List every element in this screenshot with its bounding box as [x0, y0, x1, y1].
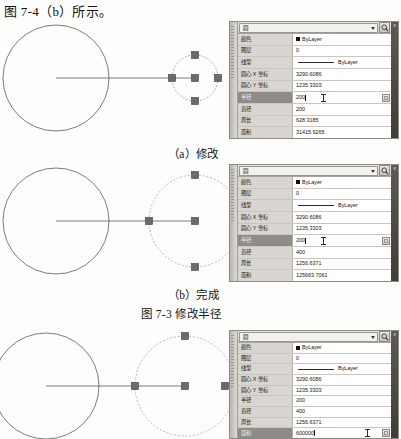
- property-row[interactable]: 圆心 Y 坐标1235.3303: [238, 224, 391, 236]
- property-value[interactable]: 3290.6086: [293, 69, 391, 80]
- property-row[interactable]: 半径200: [238, 396, 391, 407]
- object-type-combo[interactable]: 圆: [239, 23, 378, 33]
- property-value[interactable]: ByLayer: [293, 343, 391, 353]
- property-label: 半径: [238, 235, 293, 246]
- property-row[interactable]: 圆心 Y 坐标1235.3303: [238, 386, 391, 397]
- property-row[interactable]: 圆心 X 坐标3290.6086: [238, 212, 391, 224]
- property-value[interactable]: 0: [293, 189, 391, 200]
- property-label: 圆心 Y 坐标: [238, 386, 293, 396]
- palette-close-strip[interactable]: x: [391, 22, 398, 138]
- property-row[interactable]: 线型ByLayer: [238, 200, 391, 212]
- property-value[interactable]: 31415.9265: [293, 127, 391, 138]
- chevron-down-icon[interactable]: [371, 336, 375, 339]
- property-value[interactable]: 125663.7061: [293, 270, 391, 281]
- property-row[interactable]: 面积600000: [238, 428, 391, 438]
- object-type-combo[interactable]: 圆: [239, 332, 378, 342]
- property-value[interactable]: 0: [293, 354, 391, 364]
- property-value[interactable]: 1256.6371: [293, 418, 391, 428]
- palette-close-strip[interactable]: x: [391, 165, 398, 281]
- property-value-text: 3290.6086: [296, 377, 321, 382]
- property-row[interactable]: 直径200: [238, 104, 391, 116]
- property-row[interactable]: 周长1256.6371: [238, 418, 391, 429]
- close-icon[interactable]: x: [393, 332, 395, 337]
- property-label: 线型: [238, 200, 293, 211]
- property-value[interactable]: 400: [293, 407, 391, 417]
- property-value-text: 1235.3303: [296, 83, 321, 88]
- property-value[interactable]: 600000: [293, 428, 391, 438]
- property-row[interactable]: 周长628.3185: [238, 116, 391, 128]
- property-label: 直径: [238, 407, 293, 417]
- close-icon[interactable]: x: [393, 23, 395, 28]
- property-row[interactable]: 颜色ByLayer: [238, 34, 391, 46]
- property-row[interactable]: 颜色ByLayer: [238, 343, 391, 354]
- property-row[interactable]: 圆心 Y 坐标1235.3303: [238, 81, 391, 93]
- property-row[interactable]: 圆心 X 坐标3290.6086: [238, 69, 391, 81]
- property-row[interactable]: 图层0: [238, 46, 391, 58]
- properties-palette-b[interactable]: 圆 颜色ByLayer图层0线型ByLayer圆心 X 坐标3290.6086圆…: [229, 164, 399, 282]
- quick-select-button[interactable]: [379, 165, 390, 176]
- property-row[interactable]: 图层0: [238, 354, 391, 365]
- property-row[interactable]: 周长1256.6371: [238, 259, 391, 271]
- property-row[interactable]: 直径400: [238, 407, 391, 418]
- grip-left: [146, 218, 153, 225]
- property-value[interactable]: 3290.6086: [293, 375, 391, 385]
- property-row[interactable]: 圆心 X 坐标3290.6086: [238, 375, 391, 386]
- property-label: 颜色: [238, 343, 293, 353]
- grip-right: [215, 75, 222, 82]
- property-label: 半径: [238, 92, 293, 103]
- property-row[interactable]: 面积31415.9265: [238, 127, 391, 138]
- property-label: 线型: [238, 364, 293, 374]
- property-value[interactable]: 1235.3303: [293, 224, 391, 235]
- property-value[interactable]: 200: [293, 235, 391, 246]
- properties-palette-a[interactable]: 圆 颜色ByLayer图层0线型ByLayer圆心 X 坐标3290.6086圆…: [229, 21, 399, 139]
- property-row[interactable]: 面积125663.7061: [238, 270, 391, 281]
- property-value[interactable]: 0: [293, 46, 391, 57]
- property-row[interactable]: 图层0: [238, 189, 391, 201]
- property-value[interactable]: 628.3185: [293, 116, 391, 127]
- close-icon[interactable]: x: [393, 166, 395, 171]
- property-row[interactable]: 半径200: [238, 235, 391, 247]
- property-value[interactable]: ByLayer: [293, 364, 391, 374]
- textbook-page: 图 7-4（b）所示。 圆: [0, 0, 401, 439]
- property-row[interactable]: 线型ByLayer: [238, 364, 391, 375]
- property-value[interactable]: ByLayer: [293, 200, 391, 211]
- property-row[interactable]: 颜色ByLayer: [238, 177, 391, 189]
- property-value[interactable]: ByLayer: [293, 57, 391, 68]
- chevron-down-icon[interactable]: [371, 170, 375, 173]
- pick-point-button[interactable]: [382, 94, 390, 102]
- palette-close-strip[interactable]: x: [391, 331, 398, 438]
- linetype-preview-icon: [298, 205, 334, 206]
- palette-title-rail[interactable]: [230, 165, 238, 281]
- chevron-down-icon[interactable]: [371, 27, 375, 30]
- object-type-combo[interactable]: 圆: [239, 166, 378, 176]
- property-value[interactable]: 1235.3303: [293, 81, 391, 92]
- property-row[interactable]: 半径200: [238, 92, 391, 104]
- ibeam-cursor-icon: [321, 94, 326, 102]
- text-caret: [314, 430, 315, 436]
- property-value-text: ByLayer: [302, 37, 322, 42]
- property-value[interactable]: 1235.3303: [293, 386, 391, 396]
- cad-drawing-b: [0, 168, 228, 286]
- quick-select-button[interactable]: [379, 22, 390, 33]
- property-value[interactable]: 1256.6371: [293, 259, 391, 270]
- quick-select-button[interactable]: [379, 331, 390, 342]
- property-value[interactable]: 200: [293, 104, 391, 115]
- pick-point-button[interactable]: [382, 429, 390, 437]
- property-value-text: ByLayer: [338, 60, 358, 65]
- property-row[interactable]: 直径400: [238, 247, 391, 259]
- text-caret: [305, 95, 306, 101]
- property-value[interactable]: 3290.6086: [293, 212, 391, 223]
- property-value-text: ByLayer: [338, 203, 358, 208]
- pick-point-button[interactable]: [382, 237, 390, 245]
- palette-title-rail[interactable]: [230, 22, 238, 138]
- property-value[interactable]: 200: [293, 92, 391, 103]
- property-value[interactable]: 200: [293, 396, 391, 406]
- properties-palette-c[interactable]: 圆 颜色ByLayer图层0线型ByLayer圆心 X 坐标3290.6086圆…: [229, 330, 399, 439]
- property-value[interactable]: 400: [293, 247, 391, 258]
- property-row[interactable]: 线型ByLayer: [238, 57, 391, 69]
- grip-center: [182, 383, 189, 390]
- property-value[interactable]: ByLayer: [293, 177, 391, 188]
- page-heading: 图 7-4（b）所示。: [4, 1, 112, 20]
- palette-title-rail[interactable]: [230, 331, 238, 438]
- property-value[interactable]: ByLayer: [293, 34, 391, 45]
